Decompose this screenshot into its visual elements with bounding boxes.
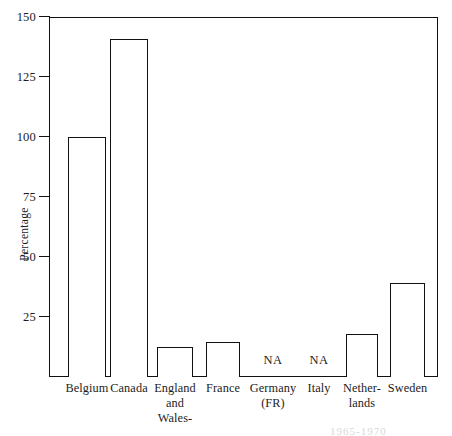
- y-tick-mark: [39, 136, 50, 137]
- y-tick-label-wrap: 100: [0, 130, 36, 144]
- y-tick-mark: [39, 256, 50, 257]
- x-label-line: (FR): [241, 396, 305, 411]
- bar-chart-figure: Percentage 255075100125150 NANA BelgiumC…: [0, 0, 452, 436]
- y-tick-label: 150: [2, 10, 36, 25]
- y-tick-label-wrap: 75: [0, 190, 36, 204]
- y-tick-label-wrap: 125: [0, 70, 36, 84]
- bar: [390, 283, 425, 377]
- y-tick-label-wrap: 150: [0, 10, 36, 24]
- na-marker: NA: [255, 353, 291, 368]
- y-tick-label: 75: [2, 190, 36, 205]
- x-label-line: Sweden: [376, 381, 439, 396]
- bar: [110, 39, 148, 377]
- y-tick-label-wrap: 50: [0, 250, 36, 264]
- bar: [157, 347, 193, 377]
- y-tick-mark: [39, 76, 50, 77]
- x-axis-category-label: Sweden: [376, 381, 439, 396]
- bar: [346, 334, 378, 377]
- na-marker: NA: [303, 353, 335, 368]
- y-tick-label: 100: [2, 130, 36, 145]
- bar: [206, 342, 240, 377]
- caption-fragment: 1965-1970: [330, 425, 440, 436]
- x-label-line: and: [143, 396, 207, 411]
- y-tick-mark: [39, 16, 50, 17]
- bar: [68, 137, 106, 377]
- y-tick-label-wrap: 25: [0, 310, 36, 324]
- y-tick-mark: [39, 316, 50, 317]
- y-tick-label: 25: [2, 310, 36, 325]
- y-tick-label: 125: [2, 70, 36, 85]
- x-label-line: lands: [332, 396, 392, 411]
- y-tick-label: 50: [2, 250, 36, 265]
- y-tick-mark: [39, 196, 50, 197]
- x-label-line: Wales-: [143, 411, 207, 426]
